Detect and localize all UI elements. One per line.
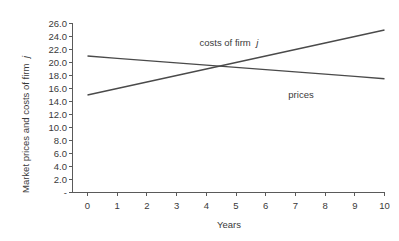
y-tick-label: 18.0	[49, 70, 68, 81]
y-tick-label: 8.0	[54, 135, 67, 146]
y-tick-label: 14.0	[49, 96, 68, 107]
x-tick-label: 4	[204, 200, 209, 211]
y-tick-label: 20.0	[49, 57, 68, 68]
x-tick-label: 0	[85, 200, 90, 211]
series-annotation-costs: costs of firm j	[200, 37, 260, 48]
x-tick-label: 1	[115, 200, 120, 211]
chart-container: Market prices and costs of firm j - 2.0 …	[0, 0, 399, 241]
x-tick-label: 7	[293, 200, 298, 211]
x-tick-label: 3	[174, 200, 179, 211]
y-axis-ticks	[69, 24, 73, 193]
y-tick-label: 6.0	[54, 148, 67, 159]
y-tick-label: 4.0	[54, 161, 67, 172]
x-tick-label: 5	[233, 200, 238, 211]
y-tick-label: -	[64, 187, 67, 198]
y-axis-title: Market prices and costs of firm j	[20, 55, 31, 193]
y-tick-label: 24.0	[49, 31, 68, 42]
y-tick-label: 2.0	[54, 174, 67, 185]
y-tick-label: 12.0	[49, 109, 68, 120]
x-axis-ticks	[88, 193, 385, 197]
series-line-prices	[88, 56, 385, 79]
x-tick-label: 6	[263, 200, 268, 211]
x-tick-label: 10	[379, 200, 390, 211]
y-tick-label: 10.0	[49, 122, 68, 133]
y-tick-label: 26.0	[49, 18, 68, 29]
line-chart: Market prices and costs of firm j - 2.0 …	[0, 0, 399, 241]
y-axis-title-text: Market prices and costs of firm	[20, 64, 31, 193]
series-annotation-costs-text: costs of firm	[200, 37, 251, 48]
x-tick-label: 9	[352, 200, 357, 211]
y-axis-tick-labels: - 2.0 4.0 6.0 8.0 10.0 12.0 14.0 16.0 18…	[49, 18, 68, 198]
series-annotation-prices: prices	[288, 89, 314, 100]
y-tick-label: 22.0	[49, 44, 68, 55]
y-tick-label: 16.0	[49, 83, 68, 94]
x-tick-label: 2	[144, 200, 149, 211]
y-axis-title-italic: j	[20, 55, 31, 60]
x-tick-label: 8	[322, 200, 327, 211]
x-axis-tick-labels: 0 1 2 3 4 5 6 7 8 9 10	[85, 200, 390, 211]
series-annotation-costs-italic: j	[254, 37, 259, 48]
x-axis-title: Years	[217, 219, 241, 230]
